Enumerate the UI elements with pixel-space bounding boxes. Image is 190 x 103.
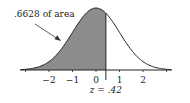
x-tick-label: −1 [66,75,79,85]
x-tick-label: −2 [42,75,55,85]
x-tick-label: 2 [140,75,146,85]
normal-curve-chart: −2−1012 z = .42 .6628 of area [0,0,190,103]
z-label: z = .42 [89,85,123,95]
x-tick-label: 0 [93,75,99,85]
arrowhead-icon [55,35,62,41]
x-ticks: −2−1012 [26,70,167,85]
area-label: .6628 of area [14,9,75,19]
arrow-pointer [35,24,58,39]
x-tick-label: 1 [117,75,123,85]
